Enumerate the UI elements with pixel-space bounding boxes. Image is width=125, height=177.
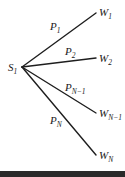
bottom-rule bbox=[0, 171, 125, 177]
prob-label-n-minus-1: PN−1 bbox=[64, 81, 86, 96]
edge-n bbox=[22, 67, 96, 155]
source-label: S1 bbox=[8, 61, 17, 76]
prob-label-1: P1 bbox=[49, 20, 60, 35]
target-label-2: W2 bbox=[99, 52, 112, 67]
prob-label-2: P2 bbox=[64, 45, 76, 60]
prob-label-n: PN bbox=[49, 114, 63, 129]
target-label-n-minus-1: WN−1 bbox=[99, 107, 122, 122]
tree-diagram: S1 P1 P2 PN−1 PN W1 W2 WN−1 WN bbox=[0, 0, 125, 177]
target-label-1: W1 bbox=[99, 6, 112, 21]
target-label-n: WN bbox=[99, 149, 114, 164]
